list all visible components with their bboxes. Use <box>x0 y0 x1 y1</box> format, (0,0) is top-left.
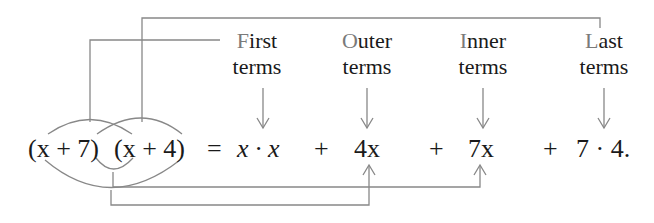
foil-connector-lines <box>0 0 654 223</box>
term-inner: 7x <box>468 134 494 164</box>
label-last-initial: L <box>585 28 598 53</box>
label-outer: Outer terms <box>332 28 402 80</box>
label-inner: Inner terms <box>448 28 518 80</box>
term-first: x · x <box>237 134 280 164</box>
plus-2: + <box>429 134 444 164</box>
first-connector <box>90 40 220 122</box>
label-last: Last terms <box>566 28 642 80</box>
label-first-initial: F <box>237 28 249 53</box>
label-inner-initial: I <box>460 28 467 53</box>
equals-sign: = <box>207 134 222 164</box>
plus-3: + <box>543 134 558 164</box>
factor-2: (x + 4) <box>114 134 185 164</box>
outer-connector <box>111 166 369 205</box>
factor-1: (x + 7) <box>28 134 99 164</box>
label-first: First terms <box>222 28 292 80</box>
label-outer-initial: O <box>342 28 358 53</box>
last-arc <box>97 118 182 134</box>
term-outer: 4x <box>354 134 380 164</box>
term-last: 7 · 4. <box>576 134 630 164</box>
plus-1: + <box>314 134 329 164</box>
